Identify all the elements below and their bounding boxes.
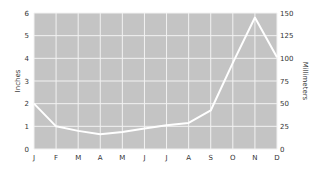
- x-tick-label: D: [274, 154, 279, 162]
- x-tick-label: M: [75, 154, 81, 162]
- y-tick-label-right: 150: [280, 10, 293, 18]
- y-tick-label-right: 100: [280, 55, 293, 63]
- y-tick-label-left: 6: [25, 10, 30, 18]
- x-tick-label: M: [119, 154, 125, 162]
- x-tick-label: A: [186, 154, 191, 162]
- x-tick-label: O: [230, 154, 236, 162]
- y-axis-left-label: Inches: [14, 69, 22, 92]
- y-tick-label-left: 1: [25, 123, 29, 131]
- precipitation-chart: 0123456 0255075100125150 JFMAMJJASOND In…: [0, 0, 318, 170]
- x-axis-ticks: JFMAMJJASOND: [32, 154, 280, 162]
- x-tick-label: S: [209, 154, 214, 162]
- y-tick-label-left: 0: [25, 146, 29, 154]
- y-tick-label-right: 0: [280, 146, 284, 154]
- x-tick-label: F: [54, 154, 58, 162]
- y-tick-label-left: 4: [25, 55, 30, 63]
- x-tick-label: N: [252, 154, 257, 162]
- y-tick-label-left: 2: [25, 100, 29, 108]
- x-tick-label: J: [165, 154, 168, 162]
- x-tick-label: A: [98, 154, 103, 162]
- y-tick-label-left: 3: [25, 78, 29, 86]
- y-axis-left-ticks: 0123456: [25, 10, 30, 154]
- y-tick-label-left: 5: [25, 32, 29, 40]
- x-tick-label: J: [142, 154, 145, 162]
- y-tick-label-right: 25: [280, 123, 289, 131]
- y-axis-right-label: Millimeters: [301, 62, 309, 101]
- y-axis-right-ticks: 0255075100125150: [280, 10, 293, 154]
- x-tick-label: J: [32, 154, 35, 162]
- y-tick-label-right: 50: [280, 100, 289, 108]
- y-tick-label-right: 75: [280, 78, 289, 86]
- y-tick-label-right: 125: [280, 32, 293, 40]
